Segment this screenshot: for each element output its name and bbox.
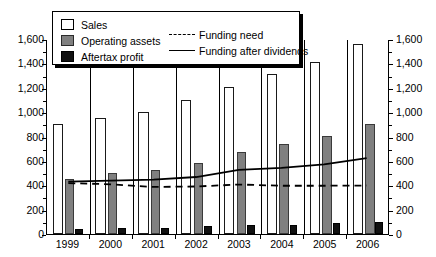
line-funding-after-dividends bbox=[68, 158, 366, 181]
x-axis-tick-label: 2005 bbox=[302, 238, 348, 250]
x-axis-tick-label: 2001 bbox=[130, 238, 176, 250]
legend-item-aftertax-profit: Aftertax profit bbox=[61, 49, 160, 64]
sales-swatch-icon bbox=[61, 19, 74, 30]
legend-item-funding-need: Funding need bbox=[169, 27, 308, 42]
legend-item-sales: Sales bbox=[61, 17, 160, 32]
y-axis-right-tick-label: 400 bbox=[396, 180, 414, 190]
x-axis-tick-label: 2006 bbox=[345, 238, 391, 250]
legend-column-lines: Funding need Funding after dividends bbox=[169, 27, 308, 59]
operating-assets-swatch-icon bbox=[61, 35, 74, 46]
legend-label-aftertax-profit: Aftertax profit bbox=[81, 51, 143, 63]
y-axis-left-tick-label: 1,000 bbox=[18, 107, 44, 117]
legend-label-sales: Sales bbox=[81, 19, 107, 31]
y-axis-left-tick-label: 0 bbox=[38, 229, 44, 239]
y-axis-tick-mark bbox=[389, 235, 393, 236]
line-series-layer bbox=[47, 40, 388, 234]
x-axis-tick-label: 2000 bbox=[87, 238, 133, 250]
legend-label-funding-need: Funding need bbox=[199, 29, 263, 41]
y-axis-right-tick-label: 600 bbox=[396, 156, 414, 166]
legend-label-funding-after-dividends: Funding after dividends bbox=[199, 45, 308, 57]
y-axis-right-tick-label: 1,600 bbox=[396, 34, 422, 44]
y-axis-left-tick-label: 1,600 bbox=[18, 34, 44, 44]
y-axis-tick-mark bbox=[42, 235, 46, 236]
y-axis-right-tick-label: 200 bbox=[396, 205, 414, 215]
y-axis-left-tick-label: 400 bbox=[26, 180, 44, 190]
x-axis-tick-label: 1999 bbox=[44, 238, 90, 250]
y-axis-left-tick-label: 1,200 bbox=[18, 83, 44, 93]
y-axis-right-tick-label: 800 bbox=[396, 132, 414, 142]
aftertax-profit-swatch-icon bbox=[61, 51, 74, 62]
chart-container: 02004006008001,0001,2001,4001,600 020040… bbox=[0, 0, 436, 257]
legend: Sales Operating assets Aftertax profit F… bbox=[52, 11, 300, 65]
y-axis-right-tick-label: 1,400 bbox=[396, 58, 422, 68]
y-axis-left-tick-label: 800 bbox=[26, 132, 44, 142]
legend-item-operating-assets: Operating assets bbox=[61, 33, 160, 48]
y-axis-left-tick-label: 600 bbox=[26, 156, 44, 166]
dashed-line-icon bbox=[169, 30, 195, 40]
solid-line-icon bbox=[169, 46, 195, 56]
legend-column-bars: Sales Operating assets Aftertax profit bbox=[61, 17, 160, 65]
x-axis-tick-label: 2003 bbox=[216, 238, 262, 250]
plot-area bbox=[46, 40, 389, 235]
x-axis-tick-label: 2002 bbox=[173, 238, 219, 250]
y-axis-left-tick-label: 200 bbox=[26, 205, 44, 215]
y-axis-right-tick-label: 1,200 bbox=[396, 83, 422, 93]
legend-label-operating-assets: Operating assets bbox=[81, 35, 160, 47]
y-axis-right-tick-label: 1,000 bbox=[396, 107, 422, 117]
y-axis-left-tick-label: 1,400 bbox=[18, 58, 44, 68]
y-axis-right-tick-label: 0 bbox=[396, 229, 402, 239]
legend-item-funding-after-dividends: Funding after dividends bbox=[169, 43, 308, 58]
line-funding-need bbox=[68, 183, 366, 187]
x-axis-tick-label: 2004 bbox=[259, 238, 305, 250]
